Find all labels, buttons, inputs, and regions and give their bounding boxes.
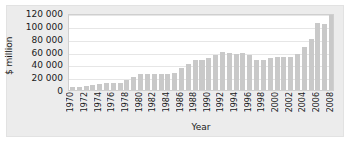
x-tick-label: 1998 xyxy=(258,92,266,112)
x-tick-label: 1972 xyxy=(81,92,89,112)
bar xyxy=(309,39,314,90)
x-tick-label: 1992 xyxy=(217,92,225,112)
bar xyxy=(329,15,334,90)
x-tick-label: 1974 xyxy=(95,92,103,112)
bar xyxy=(240,53,245,90)
bar xyxy=(227,53,232,90)
bar xyxy=(138,74,143,90)
y-tick-label: 120 000 xyxy=(26,10,63,19)
x-tick-label: 2006 xyxy=(313,92,321,112)
bar xyxy=(213,55,218,90)
bar xyxy=(131,77,136,90)
bar xyxy=(268,58,273,90)
bar-chart-figure: $ million 020 00040 00060 00080 000100 0… xyxy=(0,0,350,144)
y-tick-label: 100 000 xyxy=(26,22,63,31)
bar xyxy=(152,74,157,90)
bar xyxy=(186,64,191,90)
bar xyxy=(70,87,75,90)
x-tick-label: 1970 xyxy=(67,92,75,112)
x-tick-label: 1982 xyxy=(149,92,157,112)
bar xyxy=(159,74,164,90)
y-tick-label: 80 000 xyxy=(32,35,64,44)
y-axis-tick-labels: 020 00040 00060 00080 000100 000120 000 xyxy=(8,14,66,91)
bar xyxy=(104,83,109,90)
x-tick-label: 1978 xyxy=(122,92,130,112)
bar xyxy=(97,84,102,90)
bar xyxy=(315,23,320,90)
bar-series xyxy=(69,15,333,90)
bar xyxy=(247,55,252,90)
bar xyxy=(220,52,225,90)
x-tick-label: 1980 xyxy=(136,92,144,112)
bar xyxy=(302,47,307,90)
bar xyxy=(281,57,286,90)
bar xyxy=(288,57,293,90)
bar xyxy=(124,80,129,90)
x-tick-label: 1984 xyxy=(163,92,171,112)
x-tick-label: 1994 xyxy=(231,92,239,112)
bar xyxy=(193,60,198,90)
x-tick-label: 2008 xyxy=(327,92,335,112)
x-tick-label: 1976 xyxy=(108,92,116,112)
x-tick-label: 1990 xyxy=(204,92,212,112)
bar xyxy=(111,83,116,90)
bar xyxy=(206,58,211,90)
bar xyxy=(118,83,123,90)
bar xyxy=(234,54,239,90)
bar xyxy=(90,85,95,90)
bar xyxy=(261,60,266,90)
plot-area xyxy=(68,14,334,91)
bar xyxy=(275,57,280,90)
bar xyxy=(172,73,177,90)
bar xyxy=(254,60,259,90)
x-tick-label: 2000 xyxy=(272,92,280,112)
x-tick-label: 1996 xyxy=(245,92,253,112)
x-tick-label: 2004 xyxy=(299,92,307,112)
bar xyxy=(77,87,82,90)
y-tick-label: 20 000 xyxy=(32,74,64,83)
y-tick-label: 0 xyxy=(57,87,63,96)
x-tick-label: 1986 xyxy=(177,92,185,112)
bar xyxy=(84,86,89,90)
bar xyxy=(295,54,300,90)
bar xyxy=(165,74,170,90)
bar xyxy=(322,24,327,90)
bar xyxy=(179,68,184,90)
bar xyxy=(199,60,204,90)
x-axis-title: Year xyxy=(68,122,334,132)
x-tick-label: 1988 xyxy=(190,92,198,112)
bar xyxy=(145,74,150,90)
y-tick-label: 60 000 xyxy=(32,48,64,57)
x-axis-tick-labels: 1970197219741976197819801982198419861988… xyxy=(68,92,334,122)
y-tick-label: 40 000 xyxy=(32,61,64,70)
x-tick-label: 2002 xyxy=(286,92,294,112)
